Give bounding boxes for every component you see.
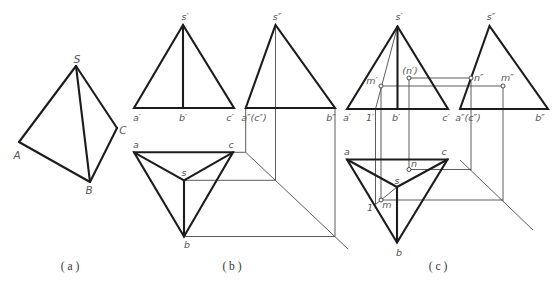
label-S: S [74, 53, 81, 65]
side-outline [246, 25, 335, 108]
label-s: s [182, 167, 187, 178]
label-m: m [382, 199, 391, 210]
label-n-dprime: n″ [474, 72, 484, 83]
label-a-prime: a′ [343, 112, 352, 123]
label-ac-dprime: a″(c″) [455, 112, 481, 123]
side-view-b [246, 25, 335, 108]
label-n: n [411, 158, 417, 169]
front-view-b [134, 25, 234, 108]
label-b: b [184, 239, 190, 250]
label-m-prime: m′ [366, 75, 378, 86]
top-view-c [347, 160, 448, 243]
pyramid-pictorial [19, 66, 117, 182]
aux-line-s1-front [376, 27, 398, 110]
label-b-dprime: b″ [326, 112, 336, 123]
label-n-prime: (n′) [402, 65, 418, 76]
point-n-prime [407, 76, 411, 80]
label-s-dprime: s″ [487, 11, 496, 22]
label-B: B [85, 184, 92, 196]
point-m-dprime [501, 84, 505, 88]
edge-AS [19, 66, 76, 142]
label-s-dprime: s″ [273, 11, 282, 22]
label-b-prime: b′ [179, 112, 188, 123]
caption-c: ( c ) [429, 260, 448, 273]
label-b-dprime: b″ [535, 112, 545, 123]
edge-BC [90, 128, 117, 182]
label-m-dprime: m″ [501, 72, 514, 83]
label-s: s [395, 175, 400, 186]
panel-a: S A B C ( a ) [12, 53, 127, 273]
label-c-prime: c′ [442, 112, 450, 123]
label-ac-dprime: a″(c″) [241, 112, 267, 123]
label-c-prime: c′ [226, 112, 234, 123]
side-view-c [460, 26, 548, 109]
label-a: a [344, 146, 350, 157]
label-s-prime: s′ [395, 11, 403, 22]
panel-b: s′ a′ b′ c′ s″ a″(c″) b″ a c s b ( b ) [133, 11, 348, 273]
edge-AB [19, 142, 90, 182]
label-C: C [119, 124, 127, 136]
label-a-prime: a′ [133, 112, 142, 123]
construction-lines-c [376, 27, 534, 231]
caption-a: ( a ) [61, 260, 80, 273]
figure-svg: S A B C ( a ) [0, 0, 555, 284]
point-n-dprime [469, 76, 473, 80]
label-1-prime: 1′ [366, 112, 375, 123]
miter-line-45 [246, 152, 348, 249]
label-b: b [396, 247, 402, 258]
miter-line-45 [460, 160, 533, 230]
caption-b: ( b ) [222, 260, 241, 273]
label-1: 1 [367, 202, 373, 213]
pyramid-projection-figure: S A B C ( a ) [0, 0, 555, 284]
label-c: c [441, 146, 447, 157]
construction-lines-b [184, 25, 348, 249]
point-m-prime [379, 84, 383, 88]
label-a: a [133, 139, 139, 150]
label-c: c [228, 139, 234, 150]
top-view-b [134, 152, 233, 236]
label-b-prime: b′ [392, 112, 401, 123]
panel-c: s′ m′ (n′) a′ 1′ b′ c′ s″ n″ m″ a″(c″) b… [343, 11, 548, 273]
front-view-c [347, 27, 448, 110]
side-outline [460, 26, 548, 109]
label-A: A [12, 149, 20, 161]
label-s-prime: s′ [181, 11, 189, 22]
